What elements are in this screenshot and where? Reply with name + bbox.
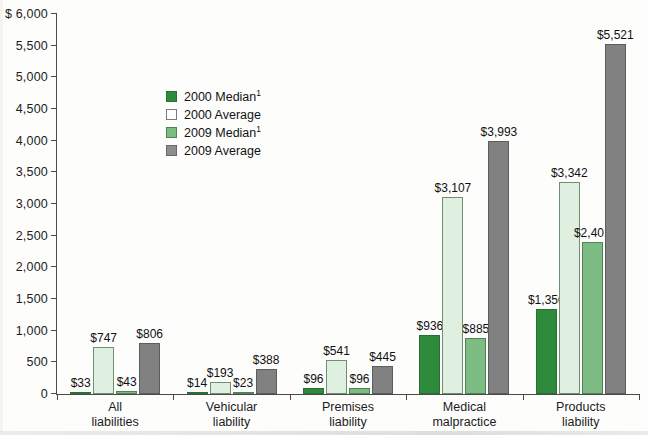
bar: $96 bbox=[349, 388, 370, 394]
bar: $445 bbox=[372, 366, 393, 394]
bar-value-label: $23 bbox=[233, 377, 253, 390]
bar: $193 bbox=[210, 382, 231, 394]
x-axis-group-label: Medicalmalpractice bbox=[406, 400, 522, 430]
y-axis-tick-label: 0 bbox=[41, 387, 48, 401]
x-axis-group-label-line: liability bbox=[290, 415, 406, 430]
bar: $541 bbox=[326, 360, 347, 394]
x-axis-group-label-line: malpractice bbox=[406, 415, 522, 430]
bar: $2,401 bbox=[582, 242, 603, 394]
x-axis-group-label-line: liability bbox=[173, 415, 289, 430]
y-axis-tick: 2,000 bbox=[0, 260, 57, 274]
y-axis-tick: 3,000 bbox=[0, 197, 57, 211]
legend-item[interactable]: 2009 Median1 bbox=[166, 124, 261, 141]
bar: $1,350 bbox=[536, 309, 557, 395]
legend-swatch-icon bbox=[166, 145, 177, 156]
x-axis-line bbox=[56, 394, 639, 395]
bar: $3,993 bbox=[488, 141, 509, 394]
y-axis-tick-label: 2,500 bbox=[16, 229, 48, 243]
bar-value-label: $445 bbox=[369, 351, 396, 364]
y-axis-tick: 1,500 bbox=[0, 292, 57, 306]
legend-swatch-icon bbox=[166, 109, 177, 120]
x-axis-group-label-line: liabilities bbox=[57, 415, 173, 430]
legend-item[interactable]: 2000 Median1 bbox=[166, 88, 261, 105]
x-axis-group-label: Productsliability bbox=[523, 400, 639, 430]
legend-item[interactable]: 2000 Average bbox=[166, 106, 261, 123]
x-axis-group-label: Vehicularliability bbox=[173, 400, 289, 430]
bar: $747 bbox=[93, 347, 114, 394]
bar: $43 bbox=[116, 391, 137, 394]
y-axis-tick: $ 6,000 bbox=[0, 7, 57, 21]
y-axis-tick: 1,000 bbox=[0, 324, 57, 338]
bar: $96 bbox=[303, 388, 324, 394]
bar: $936 bbox=[419, 335, 440, 394]
plot-area: $33$747$43$806$14$193$23$388$96$541$96$4… bbox=[57, 14, 639, 394]
y-axis-tick: 2,500 bbox=[0, 229, 57, 243]
x-axis-group-label-line: Vehicular bbox=[173, 400, 289, 415]
bar-chart: 05001,0001,5002,0002,5003,0003,5004,0004… bbox=[0, 0, 648, 435]
bar-value-label: $96 bbox=[349, 373, 369, 386]
bar: $806 bbox=[139, 343, 160, 394]
y-axis-tick-label: 4,000 bbox=[16, 134, 48, 148]
y-axis-tick: 0 bbox=[0, 387, 57, 401]
y-axis-tick: 5,500 bbox=[0, 39, 57, 53]
bar-value-label: $43 bbox=[117, 376, 137, 389]
x-axis-group-label-line: liability bbox=[523, 415, 639, 430]
y-axis-tick-label: 4,500 bbox=[16, 102, 48, 116]
bar-value-label: $5,521 bbox=[597, 29, 634, 42]
bar-value-label: $388 bbox=[253, 354, 280, 367]
y-axis-tick-label: 2,000 bbox=[16, 260, 48, 274]
bar: $33 bbox=[70, 392, 91, 394]
y-axis-tick: 500 bbox=[0, 355, 57, 369]
y-axis-tick: 5,000 bbox=[0, 70, 57, 84]
bar-value-label: $33 bbox=[71, 377, 91, 390]
y-axis-tick: 3,500 bbox=[0, 165, 57, 179]
y-axis-tick-label: 500 bbox=[27, 355, 48, 369]
legend-swatch-icon bbox=[166, 91, 177, 102]
bar-value-label: $3,107 bbox=[435, 182, 472, 195]
legend-item-label: 2009 Median1 bbox=[184, 126, 261, 140]
y-axis-tick: 4,000 bbox=[0, 134, 57, 148]
legend-item-label: 2000 Median1 bbox=[184, 90, 261, 104]
x-axis-group-label-line: All bbox=[57, 400, 173, 415]
bar-value-label: $3,342 bbox=[551, 167, 588, 180]
bar-value-label: $3,993 bbox=[481, 126, 518, 139]
bar-value-label: $885 bbox=[463, 323, 490, 336]
bar: $5,521 bbox=[605, 44, 626, 394]
y-axis-tick-label: $ 6,000 bbox=[5, 7, 48, 21]
bar: $388 bbox=[256, 369, 277, 394]
legend-item-label: 2009 Average bbox=[184, 144, 261, 158]
y-axis-tick-label: 1,500 bbox=[16, 292, 48, 306]
chart-legend: 2000 Median12000 Average2009 Median12009… bbox=[166, 88, 261, 160]
x-axis-group-label: Allliabilities bbox=[57, 400, 173, 430]
bar: $885 bbox=[465, 338, 486, 394]
bar-value-label: $96 bbox=[303, 373, 323, 386]
x-axis-group-label-line: Premises bbox=[290, 400, 406, 415]
x-axis-group-label-line: Products bbox=[523, 400, 639, 415]
legend-footnote-marker: 1 bbox=[256, 87, 261, 97]
bar-value-label: $541 bbox=[323, 345, 350, 358]
bar-value-label: $193 bbox=[207, 367, 234, 380]
legend-footnote-marker: 1 bbox=[256, 123, 261, 133]
bar: $3,107 bbox=[442, 197, 463, 394]
bar-value-label: $806 bbox=[136, 328, 163, 341]
x-axis-group-label: Premisesliability bbox=[290, 400, 406, 430]
legend-item-label: 2000 Average bbox=[184, 108, 261, 122]
bar: $23 bbox=[233, 392, 254, 394]
bar: $14 bbox=[187, 392, 208, 394]
bar: $3,342 bbox=[559, 182, 580, 394]
y-axis-tick-label: 5,500 bbox=[16, 39, 48, 53]
y-axis-tick-label: 3,000 bbox=[16, 197, 48, 211]
legend-item[interactable]: 2009 Average bbox=[166, 142, 261, 159]
y-axis-tick: 4,500 bbox=[0, 102, 57, 116]
y-axis-tick-label: 3,500 bbox=[16, 165, 48, 179]
legend-swatch-icon bbox=[166, 127, 177, 138]
y-axis-tick-label: 5,000 bbox=[16, 70, 48, 84]
x-axis-group-label-line: Medical bbox=[406, 400, 522, 415]
y-axis-tick-label: 1,000 bbox=[16, 324, 48, 338]
y-axis: 05001,0001,5002,0002,5003,0003,5004,0004… bbox=[0, 0, 57, 435]
bar-value-label: $936 bbox=[417, 320, 444, 333]
bar-value-label: $747 bbox=[90, 332, 117, 345]
bar-value-label: $14 bbox=[187, 377, 207, 390]
x-axis-group-tick bbox=[639, 394, 640, 400]
page-edge-bottom bbox=[0, 431, 648, 435]
